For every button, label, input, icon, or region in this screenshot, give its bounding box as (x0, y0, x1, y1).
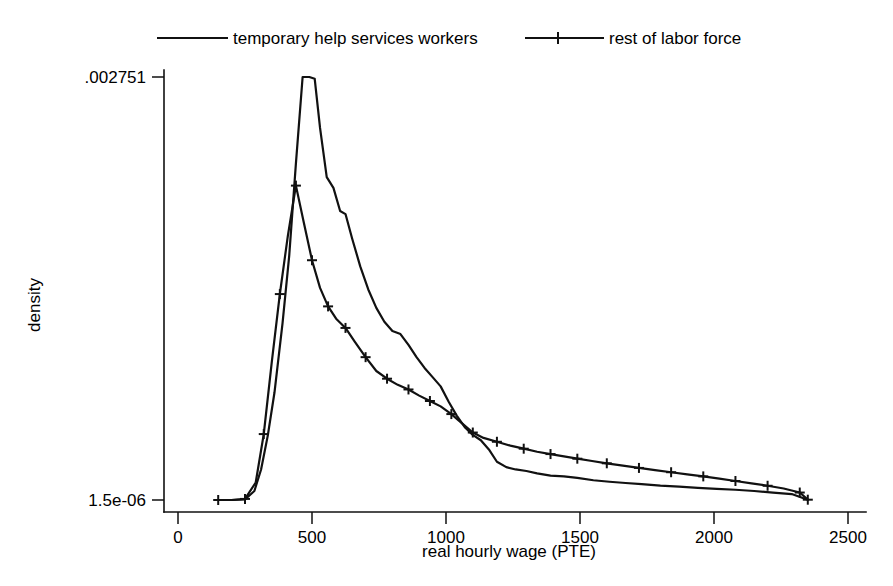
legend-label-rest-of-labor: rest of labor force (609, 29, 741, 48)
legend-label-temporary-help: temporary help services workers (233, 29, 478, 48)
x-tick-label-0: 0 (173, 528, 182, 547)
y-tick-label-top: .002751 (85, 68, 146, 87)
x-tick-label-500: 500 (298, 528, 326, 547)
x-tick-label-2000: 2000 (695, 528, 733, 547)
series-layer (213, 77, 813, 505)
y-tick-label-bottom: 1.5e-06 (88, 491, 146, 510)
series-line-2 (218, 186, 808, 500)
chart-figure: temporary help services workers rest of … (0, 0, 893, 586)
y-axis-title: density (25, 278, 44, 332)
x-tick-label-2500: 2500 (829, 528, 867, 547)
series-line-1 (218, 77, 808, 500)
series-2 (213, 181, 813, 505)
series-1 (218, 77, 808, 500)
chart-legend: temporary help services workers rest of … (157, 29, 741, 48)
x-axis-title: real hourly wage (PTE) (422, 542, 596, 561)
density-plot: temporary help services workers rest of … (0, 0, 893, 586)
